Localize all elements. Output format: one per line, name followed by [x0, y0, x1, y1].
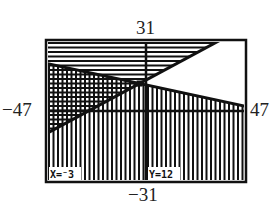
calculator-graph-screen: X=⁻3 Y=12 [0, 0, 278, 215]
x-readout: X=⁻3 [50, 169, 74, 180]
trace-cursor [137, 81, 143, 87]
cursor-marker [137, 81, 143, 87]
y-readout: Y=12 [149, 169, 173, 180]
